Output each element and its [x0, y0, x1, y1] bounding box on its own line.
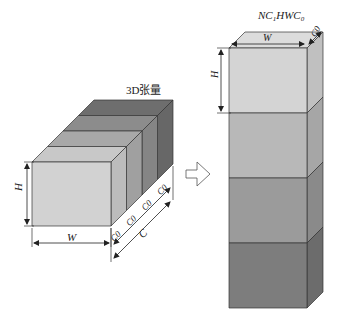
column-height-label: H	[209, 70, 220, 79]
width-dimension: W	[32, 228, 111, 247]
diagram-canvas: 3D张量 H W C C0C0C0C0 NC1HWC0 W C0	[0, 0, 341, 322]
slice-top-face	[32, 147, 127, 163]
slice-top-face	[48, 131, 143, 147]
slice-top-face	[79, 100, 174, 116]
slice-depth-label: C0	[124, 213, 139, 228]
height-dimension: H	[12, 162, 34, 226]
channel-label: C	[136, 226, 150, 240]
block-front-face	[229, 178, 307, 243]
tensor-title: 3D张量	[126, 84, 161, 96]
tensor-front-face	[32, 162, 111, 226]
3d-tensor	[32, 100, 173, 226]
slice-top-face	[63, 116, 158, 132]
block-front-face	[229, 48, 307, 113]
block-front-face	[229, 113, 307, 178]
width-label: W	[67, 231, 77, 243]
slice-depth-label: C0	[155, 182, 170, 197]
layout-title: NC1HWC0	[257, 9, 305, 23]
transform-arrow-icon	[186, 162, 210, 186]
nc1hwc0-column	[229, 32, 323, 308]
slice-depth-label: C0	[139, 198, 154, 213]
column-height-dimension: H	[209, 48, 231, 113]
block-front-face	[229, 243, 307, 308]
height-label: H	[12, 182, 24, 192]
slice-depth-label: C0	[108, 229, 123, 244]
